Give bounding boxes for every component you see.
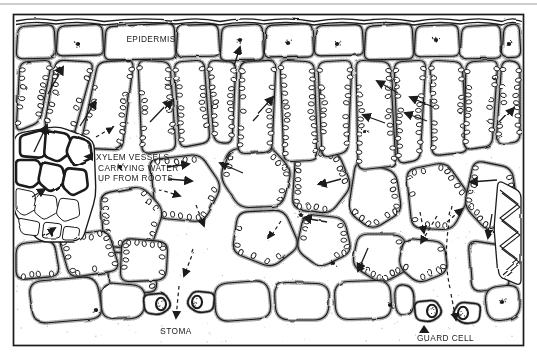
chloroplast-icon — [160, 246, 166, 251]
chloroplast-icon — [341, 231, 347, 236]
stipple-dot — [67, 332, 68, 333]
chloroplast-icon — [397, 144, 403, 148]
nucleus-dot — [340, 44, 341, 45]
nucleus-dot — [289, 42, 290, 43]
chloroplast-icon — [412, 169, 416, 175]
chloroplast-icon — [19, 68, 25, 73]
guard-cell-label-text: GUARD CELL — [417, 333, 474, 343]
stipple-dot — [448, 327, 449, 328]
chloroplast-icon — [238, 134, 244, 139]
chloroplast-icon — [212, 122, 218, 127]
chloroplast-icon — [297, 203, 301, 209]
nucleus-dot — [335, 46, 336, 47]
chloroplast-icon — [238, 68, 244, 73]
stoma-label: STOMA — [160, 326, 191, 336]
chloroplast-icon — [457, 108, 463, 113]
stipple-dot — [437, 331, 438, 332]
chloroplast-icon — [227, 93, 233, 98]
stipple-dot — [169, 243, 170, 244]
stipple-dot — [95, 335, 96, 336]
guard-dot — [163, 300, 164, 301]
chloroplast-icon — [394, 85, 400, 89]
chloroplast-icon — [473, 166, 479, 170]
nucleus-icon — [500, 300, 504, 304]
stomatal-pore-ring — [427, 305, 437, 317]
chloroplast-icon — [387, 131, 393, 136]
chloroplast-icon — [343, 123, 349, 128]
stipple-dot — [436, 296, 437, 297]
chloroplast-icon — [343, 114, 349, 118]
drawing-layer — [14, 17, 523, 343]
stipple-dot — [186, 233, 188, 235]
stipple-dot — [233, 324, 234, 325]
nucleus-dot — [291, 40, 292, 41]
chloroplast-icon — [108, 252, 114, 256]
chloroplast-icon — [347, 67, 353, 72]
guard-dot — [431, 313, 432, 314]
chloroplast-icon — [178, 138, 184, 142]
stipple-dot — [458, 295, 459, 296]
nucleus-dot — [500, 302, 501, 303]
chloroplast-icon — [173, 68, 179, 73]
cell-body — [364, 24, 413, 60]
chloroplast-icon — [238, 126, 244, 131]
stipple-dot — [222, 275, 223, 276]
guard-dot — [159, 305, 160, 306]
chloroplast-icon — [177, 93, 183, 97]
stipple-dot — [287, 324, 288, 325]
guard-dot — [157, 305, 158, 306]
chloroplast-icon — [395, 94, 401, 99]
chloroplast-icon — [192, 157, 196, 163]
chloroplast-icon — [283, 172, 289, 177]
stipple-dot — [487, 240, 488, 241]
chloroplast-icon — [317, 68, 323, 73]
cell-body — [275, 282, 330, 320]
chloroplast-icon — [425, 221, 430, 227]
stipple-dot — [75, 326, 76, 327]
stipple-dot — [222, 342, 223, 343]
stipple-dot — [282, 341, 283, 342]
chloroplast-icon — [106, 244, 112, 249]
stipple-dot — [131, 102, 132, 103]
chloroplast-icon — [282, 151, 288, 156]
nucleus-dot — [432, 38, 433, 39]
cuticle-line — [16, 19, 521, 22]
chloroplast-icon — [120, 122, 126, 126]
nucleus-dot — [335, 41, 336, 42]
chloroplast-icon — [347, 75, 353, 80]
cell-body — [56, 24, 103, 55]
nucleus-dot — [510, 40, 511, 41]
chloroplast-icon — [466, 99, 472, 104]
nucleus-dot — [507, 45, 508, 46]
nucleus-dot — [339, 42, 340, 43]
xylem-label-line1: XYLEM VESSELS — [96, 152, 170, 162]
chloroplast-icon — [442, 222, 447, 228]
chloroplast-icon — [282, 91, 288, 96]
cell-body — [238, 60, 276, 153]
guard-dot — [466, 309, 467, 310]
stipple-dot — [372, 18, 373, 19]
guard-dot — [459, 314, 460, 315]
nucleus-dot — [237, 39, 238, 40]
guard-dot — [195, 302, 196, 303]
chloroplast-icon — [278, 65, 284, 70]
stipple-dot — [180, 275, 181, 276]
guard-dot — [428, 309, 429, 310]
chloroplast-icon — [295, 177, 301, 181]
nucleus-dot — [99, 312, 100, 313]
nucleus-dot — [499, 300, 500, 301]
chloroplast-icon — [183, 157, 188, 163]
stipple-dot — [362, 275, 363, 276]
stipple-dot — [16, 291, 18, 293]
nucleus-dot — [505, 298, 506, 299]
phloem-cell — [62, 226, 79, 240]
stipple-dot — [234, 205, 235, 206]
chloroplast-icon — [345, 93, 351, 97]
chloroplast-icon — [268, 131, 274, 136]
chloroplast-icon — [239, 86, 245, 90]
nucleus-dot — [79, 46, 80, 47]
chloroplast-icon — [416, 130, 422, 134]
chloroplast-icon — [416, 122, 422, 127]
chloroplast-icon — [489, 127, 495, 132]
chloroplast-icon — [312, 140, 318, 145]
